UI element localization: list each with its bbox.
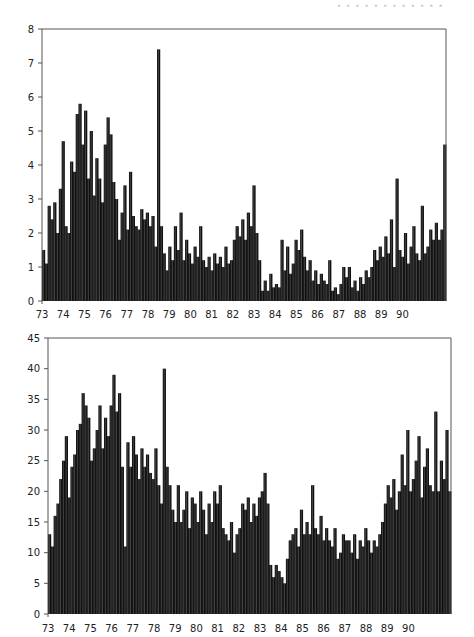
y-tick-label: 5 bbox=[28, 126, 34, 137]
y-tick-label: 5 bbox=[34, 578, 40, 589]
x-tick-label: 84 bbox=[275, 623, 288, 634]
x-tick-label: 86 bbox=[317, 623, 330, 634]
y-tick-label: 20 bbox=[27, 486, 40, 497]
x-tick-label: 80 bbox=[190, 623, 203, 634]
x-tick-label: 90 bbox=[402, 623, 415, 634]
x-tick-label: 73 bbox=[42, 623, 55, 634]
x-tick-label: 79 bbox=[169, 623, 182, 634]
x-tick-label: 74 bbox=[63, 623, 76, 634]
y-tick-label: 0 bbox=[28, 296, 34, 307]
y-tick-label: 35 bbox=[27, 394, 40, 405]
x-tick-label: 83 bbox=[254, 623, 267, 634]
y-tick-label: 40 bbox=[27, 363, 40, 374]
y-tick-label: 3 bbox=[28, 194, 34, 205]
y-tick-label: 6 bbox=[28, 92, 34, 103]
y-tick-label: 0 bbox=[34, 609, 40, 620]
x-tick-label: 77 bbox=[126, 623, 139, 634]
chart-bottom-svg: 0510152025303540457374757677787980818283… bbox=[0, 310, 474, 637]
x-tick-label: 88 bbox=[360, 623, 373, 634]
x-tick-label: 87 bbox=[338, 623, 351, 634]
y-tick-label: 10 bbox=[27, 547, 40, 558]
x-tick-label: 85 bbox=[296, 623, 309, 634]
x-tick-label: 75 bbox=[84, 623, 97, 634]
y-tick-label: 25 bbox=[27, 455, 40, 466]
y-tick-label: 15 bbox=[27, 517, 40, 528]
y-tick-label: 1 bbox=[28, 262, 34, 273]
y-tick-label: 45 bbox=[27, 333, 40, 344]
y-tick-label: 7 bbox=[28, 58, 34, 69]
x-tick-label: 82 bbox=[232, 623, 245, 634]
bars bbox=[42, 49, 446, 301]
x-tick-label: 89 bbox=[381, 623, 394, 634]
x-tick-label: 81 bbox=[211, 623, 224, 634]
chart-top-bar: 0123456787374757677787980818283848586878… bbox=[0, 0, 474, 324]
x-tick-label: 76 bbox=[105, 623, 118, 634]
bars bbox=[48, 369, 451, 614]
x-tick-label: 78 bbox=[148, 623, 161, 634]
chart-top-svg: 0123456787374757677787980818283848586878… bbox=[0, 0, 474, 320]
y-tick-label: 2 bbox=[28, 228, 34, 239]
y-tick-label: 30 bbox=[27, 425, 40, 436]
y-tick-label: 4 bbox=[28, 160, 34, 171]
chart-bottom-bar: 0510152025303540457374757677787980818283… bbox=[0, 310, 474, 637]
y-tick-label: 8 bbox=[28, 24, 34, 35]
